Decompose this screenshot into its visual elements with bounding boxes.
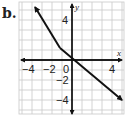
x-tick-neg4: −4 xyxy=(22,63,35,75)
x-axis-label: x xyxy=(116,48,121,58)
y-tick-neg4: −4 xyxy=(56,94,69,106)
coordinate-graph: y x −4 −2 0 4 4 −2 −4 xyxy=(0,0,129,117)
y-tick-4: 4 xyxy=(62,14,68,26)
x-tick-4: 4 xyxy=(109,63,115,75)
y-axis-label: y xyxy=(74,2,79,12)
y-tick-neg2: −2 xyxy=(56,74,69,86)
x-tick-neg2: −2 xyxy=(43,63,56,75)
